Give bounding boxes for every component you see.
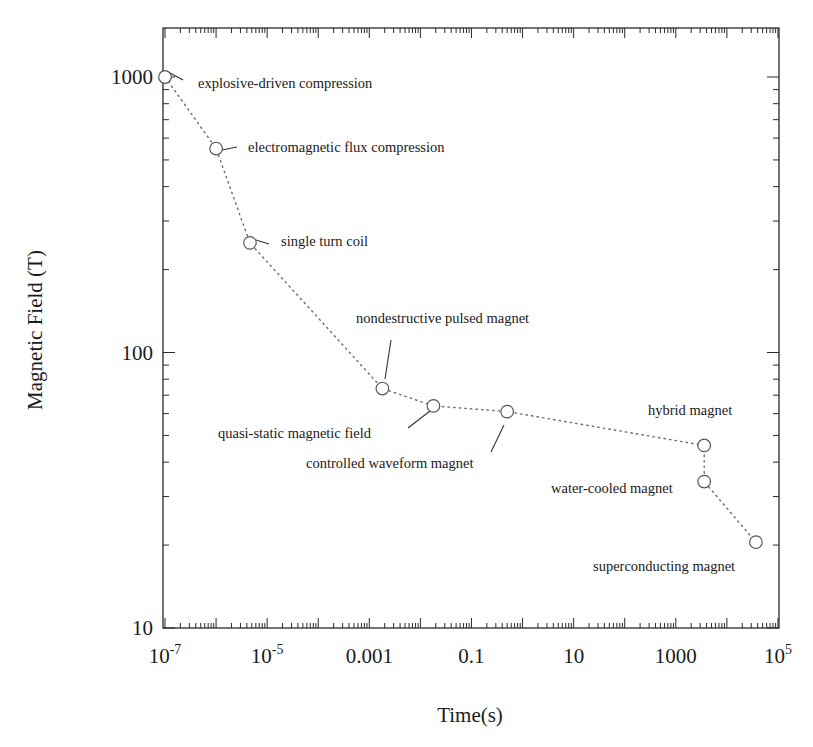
data-point-marker (159, 71, 172, 84)
point-label: superconducting magnet (593, 558, 735, 574)
log-log-scatter-chart: explosive-driven compressionelectromagne… (0, 0, 813, 747)
x-tick-labels: 10-710-50.0010.1101000105 (149, 642, 792, 668)
y-tick-labels: 101001000 (111, 65, 153, 640)
label-leader-line (222, 147, 237, 150)
point-label: explosive-driven compression (198, 75, 373, 91)
data-point-marker (244, 237, 257, 250)
y-axis-label: Magnetic Field (T) (23, 250, 47, 410)
label-leader-lines (170, 73, 504, 452)
label-leader-line (256, 240, 269, 244)
point-label: hybrid magnet (648, 402, 732, 418)
data-point-marker (698, 439, 711, 452)
x-tick-label: 10-5 (251, 642, 284, 668)
chart-container: explosive-driven compressionelectromagne… (0, 0, 813, 747)
label-leader-line (385, 340, 391, 379)
x-tick-label: 0.1 (458, 644, 484, 668)
plot-frame (163, 28, 779, 628)
x-tick-label: 0.001 (346, 644, 393, 668)
x-tick-label: 1000 (655, 644, 697, 668)
y-tick-label: 100 (122, 341, 154, 365)
data-point-marker (750, 536, 763, 549)
x-tick-label: 105 (764, 642, 792, 668)
point-label: controlled waveform magnet (306, 455, 474, 471)
data-point-marker (427, 400, 440, 413)
data-point-marker (210, 142, 223, 155)
point-label: electromagnetic flux compression (248, 139, 445, 155)
axis-ticks (163, 28, 779, 628)
point-labels: explosive-driven compressionelectromagne… (198, 75, 735, 574)
y-tick-label: 10 (132, 616, 153, 640)
data-point-marker (698, 475, 711, 488)
data-point-marker (376, 382, 389, 395)
label-leader-line (408, 411, 430, 428)
label-leader-line (491, 425, 504, 452)
point-label: quasi-static magnetic field (218, 425, 372, 441)
y-tick-label: 1000 (111, 65, 153, 89)
x-tick-label: 10-7 (149, 642, 182, 668)
point-label: nondestructive pulsed magnet (356, 310, 529, 326)
x-axis-label: Time(s) (437, 703, 503, 727)
point-label: water-cooled magnet (551, 480, 673, 496)
point-label: single turn coil (281, 233, 368, 249)
x-tick-label: 10 (563, 644, 584, 668)
data-point-marker (501, 405, 514, 418)
